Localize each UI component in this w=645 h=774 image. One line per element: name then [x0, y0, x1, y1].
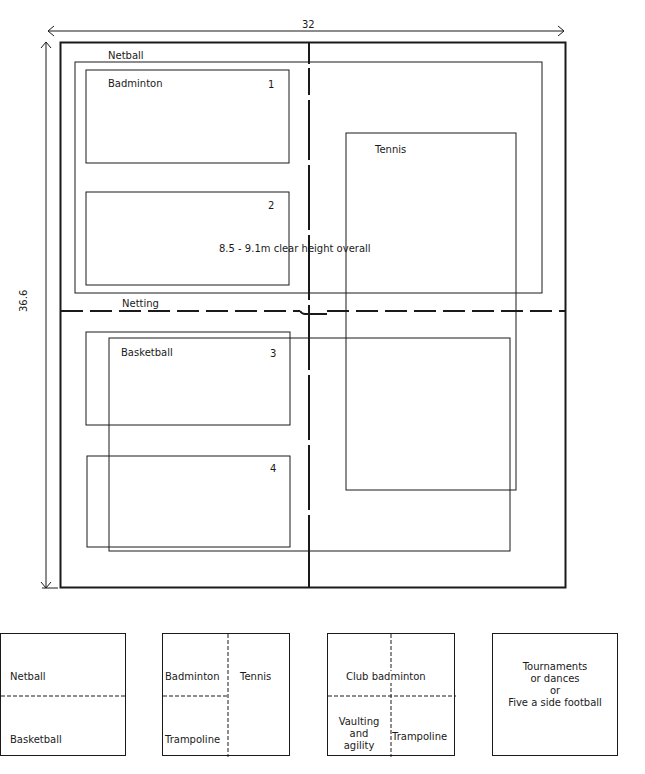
netting-jog	[300, 311, 327, 314]
layout-3-club-badminton: Club badminton	[346, 671, 426, 683]
layout-4-five-a-side: Five a side football	[493, 697, 617, 709]
layout-tournaments: Tournaments or dances or Five a side foo…	[492, 633, 618, 756]
court-1-number: 1	[268, 79, 274, 91]
layout-3-trampoline: Trampoline	[392, 731, 447, 743]
layout-4-text: Tournaments or dances or Five a side foo…	[493, 661, 617, 709]
basketball-label: Basketball	[121, 347, 173, 359]
layout-netball-basketball: Netball Basketball	[0, 633, 126, 756]
court-3	[86, 332, 290, 425]
badminton-label: Badminton	[108, 78, 163, 90]
badminton-court-2	[86, 192, 289, 285]
width-dimension-label: 32	[302, 19, 315, 31]
height-dimension-line	[41, 42, 58, 588]
court-2-number: 2	[268, 200, 274, 212]
netting-label: Netting	[122, 298, 159, 310]
layout-4-or-dances: or dances	[493, 673, 617, 685]
netball-label: Netball	[108, 50, 144, 62]
layout-3-agility: agility	[330, 740, 388, 752]
layout-4-or: or	[493, 685, 617, 697]
layout-3-and: and	[330, 728, 388, 740]
layout-2-badminton: Badminton	[165, 671, 220, 683]
court-4-number: 4	[270, 463, 276, 475]
layout-1-netball: Netball	[10, 671, 46, 683]
sports-hall-plan	[0, 0, 645, 620]
layout-4-tournaments: Tournaments	[493, 661, 617, 673]
tennis-label: Tennis	[375, 144, 406, 156]
layout-2-trampoline: Trampoline	[165, 734, 220, 746]
layout-badminton-tennis-trampoline: Badminton Tennis Trampoline	[162, 633, 290, 756]
court-4	[87, 456, 290, 547]
layout-3-vaulting-and-agility: Vaulting and agility	[330, 716, 388, 752]
layout-club-badminton-vaulting-trampoline: Club badminton Vaulting and agility Tram…	[327, 633, 455, 756]
court-3-number: 3	[270, 348, 276, 360]
layout-1-basketball: Basketball	[10, 734, 62, 746]
layout-3-vaulting: Vaulting	[330, 716, 388, 728]
layout-2-tennis: Tennis	[240, 671, 271, 683]
clear-height-note: 8.5 - 9.1m clear height overall	[219, 243, 371, 255]
height-dimension-label: 36.6	[18, 290, 30, 312]
